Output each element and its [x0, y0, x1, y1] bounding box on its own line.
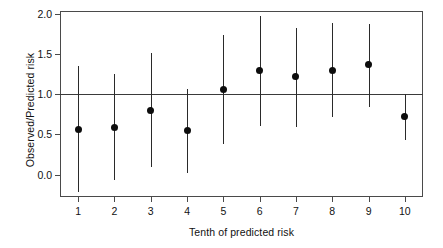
- x-tick-label: 10: [399, 205, 411, 217]
- data-point: [75, 126, 82, 133]
- plot-area: 0.00.51.01.52.0 12345678910: [60, 11, 423, 197]
- x-tick-label: 6: [257, 205, 263, 217]
- x-tick-label: 3: [148, 205, 154, 217]
- y-tick-label: 1.0: [37, 88, 52, 100]
- y-tick-mark: [55, 54, 60, 55]
- x-tick-mark: [332, 197, 333, 202]
- x-tick-label: 5: [220, 205, 226, 217]
- y-tick-label: 0.0: [37, 169, 52, 181]
- y-axis-label: Observed/Predicted risk: [24, 15, 36, 205]
- x-tick-label: 9: [366, 205, 372, 217]
- x-tick-mark: [223, 197, 224, 202]
- x-tick-mark: [260, 197, 261, 202]
- data-point: [292, 73, 299, 80]
- y-tick-mark: [55, 134, 60, 135]
- x-tick-mark: [405, 197, 406, 202]
- x-tick-label: 4: [184, 205, 190, 217]
- data-point: [256, 67, 263, 74]
- x-tick-label: 2: [112, 205, 118, 217]
- y-tick-mark: [55, 175, 60, 176]
- x-tick-label: 8: [329, 205, 335, 217]
- x-tick-mark: [369, 197, 370, 202]
- x-tick-label: 1: [75, 205, 81, 217]
- data-point: [147, 107, 154, 114]
- y-tick-label: 2.0: [37, 8, 52, 20]
- x-tick-mark: [114, 197, 115, 202]
- x-axis-label: Tenth of predicted risk: [60, 226, 423, 238]
- data-point: [365, 61, 372, 68]
- data-point: [111, 124, 118, 131]
- y-tick-label: 1.5: [37, 48, 52, 60]
- x-tick-label: 7: [293, 205, 299, 217]
- x-tick-mark: [151, 197, 152, 202]
- chart-figure: Observed/Predicted risk Tenth of predict…: [0, 0, 443, 248]
- data-point: [329, 67, 336, 74]
- y-tick-label: 0.5: [37, 128, 52, 140]
- data-point: [184, 127, 191, 134]
- x-tick-mark: [187, 197, 188, 202]
- data-point: [401, 113, 408, 120]
- y-tick-mark: [55, 14, 60, 15]
- data-point: [220, 86, 227, 93]
- x-tick-mark: [296, 197, 297, 202]
- x-tick-mark: [78, 197, 79, 202]
